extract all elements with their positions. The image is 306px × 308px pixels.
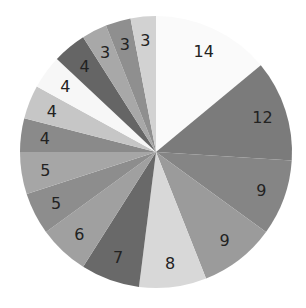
slice-label: 8	[165, 254, 175, 273]
slice-label: 6	[74, 225, 84, 244]
slice-label: 9	[256, 181, 266, 200]
slice-label: 3	[140, 31, 150, 50]
slice-label: 4	[40, 129, 50, 148]
slice-label: 7	[113, 248, 123, 267]
slice-label: 4	[80, 57, 90, 76]
slice-label: 14	[194, 42, 214, 61]
slice-label: 5	[40, 161, 50, 180]
pie-chart: 141299876554444333	[0, 0, 306, 308]
slice-label: 9	[220, 231, 230, 250]
slice-label: 5	[51, 194, 61, 213]
slice-label: 3	[100, 43, 110, 62]
slice-label: 4	[60, 77, 70, 96]
pie-slices	[20, 16, 292, 288]
slice-label: 4	[47, 102, 57, 121]
slice-label: 3	[120, 35, 130, 54]
slice-label: 12	[252, 108, 272, 127]
